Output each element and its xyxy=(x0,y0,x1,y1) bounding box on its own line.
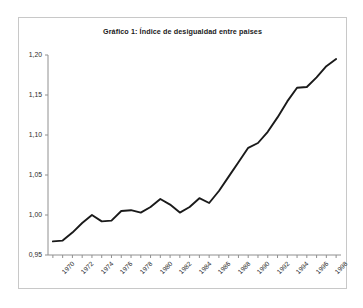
x-tick-label: 1992 xyxy=(275,260,290,275)
x-tick-label: 1998 xyxy=(334,260,349,275)
x-tick-label: 1988 xyxy=(236,260,251,275)
x-tick-label: 1982 xyxy=(177,260,192,275)
figure-frame: Gráfico 1: Índice de desigualdad entre p… xyxy=(18,17,347,289)
x-tick-labels: 1970197219741976197819801982198419861988… xyxy=(19,18,348,290)
x-tick-label: 1974 xyxy=(99,260,114,275)
x-tick-label: 1980 xyxy=(158,260,173,275)
chart-figure: Gráfico 1: Índice de desigualdad entre p… xyxy=(0,0,363,308)
x-tick-label: 1972 xyxy=(80,260,95,275)
x-tick-label: 1990 xyxy=(256,260,271,275)
x-tick-label: 1976 xyxy=(119,260,134,275)
x-tick-label: 1996 xyxy=(314,260,329,275)
x-tick-label: 1984 xyxy=(197,260,212,275)
x-tick-label: 1970 xyxy=(60,260,75,275)
x-tick-label: 1978 xyxy=(138,260,153,275)
x-tick-label: 1994 xyxy=(295,260,310,275)
x-tick-label: 1986 xyxy=(216,260,231,275)
